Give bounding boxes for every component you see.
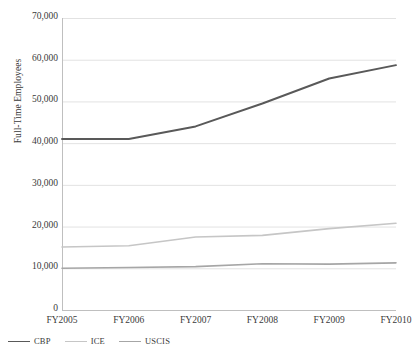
x-tick-label: FY2009: [314, 315, 345, 325]
y-tick-label: 70,000: [12, 12, 58, 22]
legend-swatch-icon: [65, 341, 87, 342]
y-tick-label: 0: [12, 304, 58, 314]
legend-item-ice[interactable]: ICE: [65, 336, 105, 346]
series-line-uscis: [62, 263, 396, 268]
x-tick-label: FY2007: [180, 315, 211, 325]
legend-item-cbp[interactable]: CBP: [8, 336, 51, 346]
y-tick-label: 10,000: [12, 262, 58, 272]
legend-swatch-icon: [119, 341, 141, 342]
legend-label: CBP: [34, 336, 51, 346]
legend-label: ICE: [91, 336, 105, 346]
legend-label: USCIS: [145, 336, 170, 346]
x-tick-label: FY2006: [113, 315, 144, 325]
y-tick-label: 20,000: [12, 221, 58, 231]
legend-item-uscis[interactable]: USCIS: [119, 336, 170, 346]
y-tick-label: 30,000: [12, 179, 58, 189]
x-tick-label: FY2005: [46, 315, 77, 325]
x-tick-label: FY2010: [380, 315, 411, 325]
y-tick-label: 40,000: [12, 137, 58, 147]
x-tick-label: FY2008: [247, 315, 278, 325]
chart-legend: CBPICEUSCIS: [8, 333, 170, 349]
y-tick-label: 60,000: [12, 54, 58, 64]
y-axis-tick-labels: 010,00020,00030,00040,00050,00060,00070,…: [8, 0, 58, 350]
y-tick-label: 50,000: [12, 95, 58, 105]
legend-swatch-icon: [8, 341, 30, 342]
